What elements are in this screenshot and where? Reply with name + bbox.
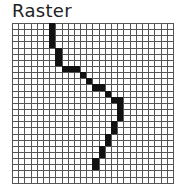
raster-grid (12, 23, 174, 184)
diagram-title: Raster (12, 1, 72, 21)
pixel-cell (167, 177, 173, 183)
